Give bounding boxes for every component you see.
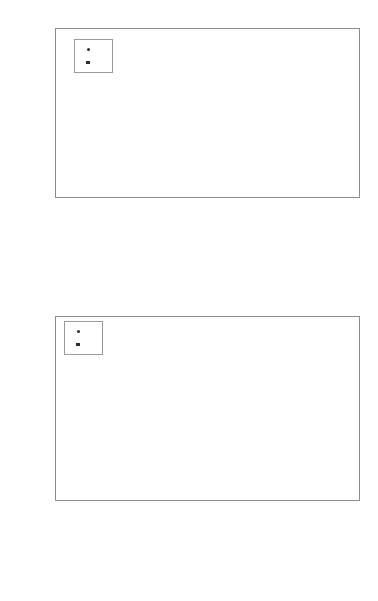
plot-area-b [55,316,360,501]
legend-b [64,321,103,355]
figure-container [0,0,378,601]
dot-marker-icon [81,48,95,51]
panel-a [0,0,378,300]
square-marker-icon [71,343,85,346]
legend-item-conventional [81,44,102,55]
dot-marker-icon [71,330,85,333]
panel-b [0,300,378,601]
plot-area-a [55,28,360,198]
square-marker-icon [81,61,95,64]
legend-a [74,39,113,73]
legend-item-conventional [71,326,92,337]
legend-item-ftech [71,339,92,350]
legend-item-ftech [81,57,102,68]
clipped-caption-strip [0,592,378,601]
